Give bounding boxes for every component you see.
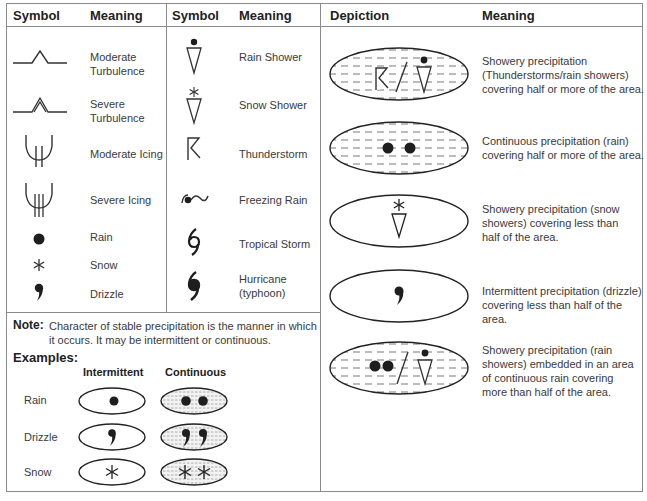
meaning-rain-shower: Rain Shower [239,50,302,64]
depiction-snow-shower [328,193,470,249]
note-label: Note: [13,318,44,332]
meaning-thunderstorm: Thunderstorm [239,147,307,161]
header-meaning-1: Meaning [90,8,143,23]
example-snow-intermittent [77,457,147,487]
depiction-intermittent-drizzle [328,268,470,324]
examples-title: Examples: [13,350,78,365]
depiction-meaning-5: Showery precipitation (rain showers) emb… [482,343,634,399]
header-meaning-2: Meaning [239,8,292,23]
example-drizzle-intermittent [77,422,147,452]
example-label-snow: Snow [24,465,52,479]
header-symbol-2: Symbol [172,8,219,23]
depiction-meaning-3: Showery precipitation (snow showers) cov… [482,202,620,244]
moderate-turbulence-icon [12,44,68,68]
depiction-showery-thunderstorm-rain [328,46,470,102]
meaning-hurricane: Hurricane (typhoon) [239,272,287,300]
example-drizzle-continuous [159,422,229,452]
freezing-rain-icon [180,190,210,208]
rain-shower-icon [185,38,203,74]
example-label-rain: Rain [24,393,47,407]
meaning-severe-turbulence: Severe Turbulence [90,97,145,125]
depiction-continuous-rain [328,120,470,176]
examples-col-intermittent: Intermittent [83,366,144,378]
severe-icing-icon [24,182,54,218]
header-depiction: Depiction [330,8,389,23]
drizzle-comma-icon [34,283,46,303]
example-label-drizzle: Drizzle [24,430,58,444]
meaning-moderate-turbulence: Moderate Turbulence [90,50,145,78]
hurricane-icon [186,271,202,301]
meaning-snow-shower: Snow Shower [239,98,307,112]
meaning-rain: Rain [90,230,113,244]
example-snow-continuous [159,457,229,487]
example-rain-continuous [159,386,229,416]
left-inner-divider [166,3,167,312]
main-column-divider [320,3,321,492]
examples-col-continuous: Continuous [165,366,226,378]
example-rain-intermittent [77,386,147,416]
depiction-meaning-2: Continuous precipitation (rain) covering… [482,134,644,162]
depiction-meaning-1: Showery precipitation (Thunderstorms/rai… [482,54,644,96]
meaning-tropical-storm: Tropical Storm [239,237,310,251]
snow-asterisk-icon [32,258,46,272]
meaning-severe-icing: Severe Icing [90,193,151,207]
snow-shower-icon [185,86,203,124]
header-divider [6,26,643,27]
header-meaning-right: Meaning [482,8,535,23]
header-symbol-1: Symbol [13,8,60,23]
tropical-storm-icon [186,228,202,256]
depiction-meaning-4: Intermittent precipitation (drizzle) cov… [482,284,647,326]
rain-dot-icon [32,232,46,246]
depiction-embedded-rain-showers [328,340,470,396]
meaning-snow: Snow [90,258,118,272]
moderate-icing-icon [24,134,54,168]
note-text: Character of stable precipitation is the… [49,319,317,347]
meaning-moderate-icing: Moderate Icing [90,147,163,161]
severe-turbulence-icon [12,92,68,116]
note-divider [6,312,320,313]
meaning-freezing-rain: Freezing Rain [239,193,307,207]
meaning-drizzle: Drizzle [90,287,124,301]
thunderstorm-icon [186,136,204,162]
